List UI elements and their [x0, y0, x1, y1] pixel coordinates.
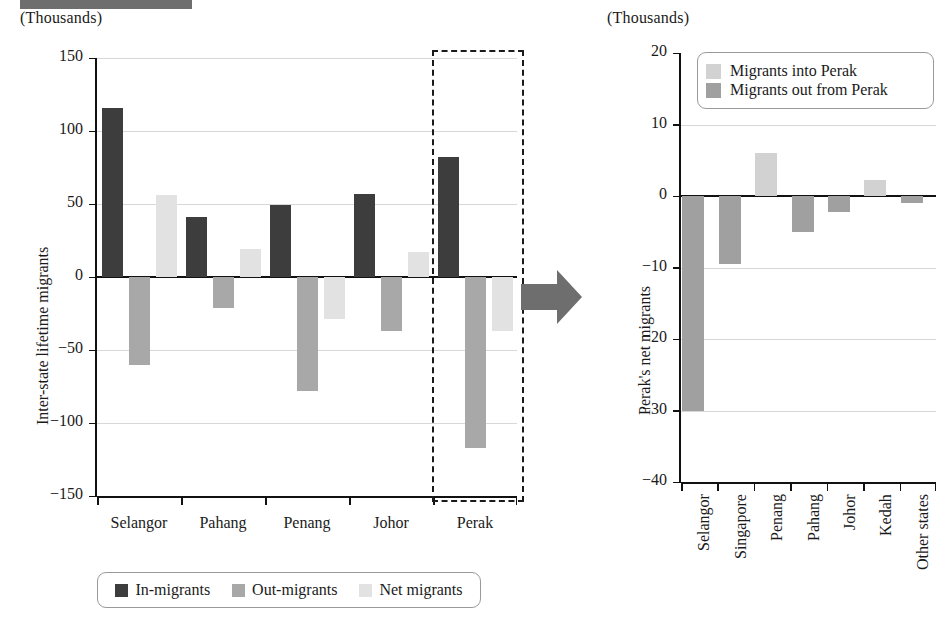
right-bar-chart: [681, 53, 936, 482]
y-axis-tick-label: 100: [11, 120, 83, 138]
x-axis-category-label: Penang: [768, 494, 786, 541]
legend-swatch-icon: [359, 584, 372, 597]
legend-item: Migrants into Perak: [706, 62, 923, 80]
legend-label: Net migrants: [379, 581, 462, 599]
legend-swatch-icon: [706, 64, 721, 79]
y-axis-tick-label: −20: [595, 328, 667, 346]
y-axis-tick-label: 150: [11, 47, 83, 65]
bar: [381, 277, 402, 331]
gridline: [681, 339, 936, 340]
legend-swatch-icon: [115, 584, 128, 597]
legend-label: Out-migrants: [252, 581, 337, 599]
y-axis-tick-label: −30: [595, 400, 667, 418]
legend-label: In-migrants: [135, 581, 210, 599]
right-chart-legend: Migrants into PerakMigrants out from Per…: [697, 52, 934, 109]
x-axis-tick: [349, 496, 351, 505]
x-axis-category-label: Kedah: [877, 494, 895, 536]
y-axis-tick-label: 10: [595, 114, 667, 132]
bar: [719, 196, 741, 264]
bar: [156, 195, 177, 277]
legend-label: Migrants out from Perak: [730, 81, 888, 99]
left-units-label: (Thousands): [20, 9, 102, 27]
x-axis-tick: [900, 482, 902, 491]
bar: [755, 153, 777, 196]
flow-arrow-icon: [521, 268, 583, 326]
y-axis-tick-label: −10: [595, 257, 667, 275]
x-axis-tick: [827, 482, 829, 491]
bar: [270, 205, 291, 277]
bar: [129, 277, 150, 365]
right-y-axis-title: Perak's net migrants: [636, 286, 654, 415]
legend-label: Migrants into Perak: [730, 62, 857, 80]
x-axis-tick: [181, 496, 183, 505]
y-axis-tick-label: 0: [11, 266, 83, 284]
bar: [901, 196, 923, 203]
bar: [408, 252, 429, 277]
y-axis-tick-label: −100: [11, 412, 83, 430]
x-axis-category-label: Other states: [914, 494, 932, 570]
bar: [297, 277, 318, 391]
bar: [102, 108, 123, 277]
gridline: [681, 125, 936, 126]
x-axis-category-label: Selangor: [695, 494, 713, 551]
x-axis-tick: [790, 482, 792, 491]
x-axis-category-label: Johor: [841, 494, 859, 530]
bar: [792, 196, 814, 232]
right-units-label: (Thousands): [607, 9, 689, 27]
legend-item: In-migrants: [115, 581, 210, 599]
y-axis-line: [679, 53, 681, 482]
redacted-heading-strip: [20, 0, 192, 9]
legend-swatch-icon: [232, 584, 245, 597]
y-axis-tick-label: −50: [11, 339, 83, 357]
x-axis-category-label: Singapore: [732, 494, 750, 559]
bar: [324, 277, 345, 319]
legend-swatch-icon: [706, 83, 721, 98]
bar: [682, 196, 704, 411]
bar: [828, 196, 850, 212]
legend-item: Migrants out from Perak: [706, 81, 923, 99]
legend-item: Out-migrants: [232, 581, 337, 599]
y-axis-tick-label: 20: [595, 42, 667, 60]
y-axis-tick-label: −40: [595, 471, 667, 489]
x-axis-line: [681, 482, 936, 484]
gridline: [681, 411, 936, 412]
bar: [354, 194, 375, 277]
bar: [213, 277, 234, 308]
left-chart-legend: In-migrantsOut-migrantsNet migrants: [97, 572, 481, 608]
bar: [240, 249, 261, 277]
x-axis-tick: [935, 482, 937, 491]
x-axis-category-label: Pahang: [805, 494, 823, 541]
y-axis-tick-label: 0: [595, 185, 667, 203]
x-axis-tick: [265, 496, 267, 505]
legend-item: Net migrants: [359, 581, 462, 599]
x-axis-tick: [681, 482, 683, 491]
y-axis-tick-label: −150: [11, 485, 83, 503]
x-axis-category-label: Perak: [415, 514, 535, 532]
bar: [864, 180, 886, 196]
y-axis-tick-label: 50: [11, 193, 83, 211]
gridline: [681, 268, 936, 269]
perak-highlight-box: [432, 50, 524, 502]
x-axis-tick: [863, 482, 865, 491]
x-axis-tick: [97, 496, 99, 505]
x-axis-tick: [717, 482, 719, 491]
bar: [186, 217, 207, 277]
x-axis-tick: [754, 482, 756, 491]
